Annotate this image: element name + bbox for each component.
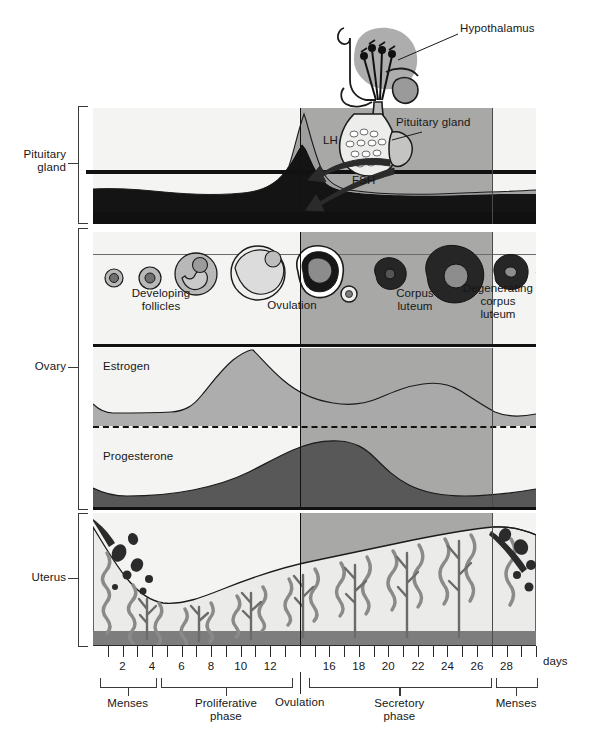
ovulation-pointer-line — [300, 672, 301, 694]
axis-tick — [536, 646, 537, 657]
phase-bracket-stem — [516, 687, 517, 696]
row-label-pituitary: Pituitary gland — [0, 148, 66, 174]
axis-tick — [359, 646, 360, 657]
axis-unit-label: days — [543, 655, 568, 668]
anatomy-label-hypothalamus: Hypothalamus — [460, 22, 535, 35]
menstrual-cycle-figure: Pituitary gland Ovary Uterus — [0, 0, 612, 747]
hormone-divider-dashed-line — [93, 426, 536, 428]
hormone-label-fsh: FSH — [352, 174, 375, 187]
axis-tick — [403, 646, 404, 657]
bracket-tick-uterus — [68, 578, 79, 579]
axis-tick — [418, 646, 419, 657]
axis-tick-label: 28 — [491, 660, 523, 673]
separator-follicles-hormones — [93, 344, 536, 347]
axis-tick-label: 6 — [166, 660, 198, 673]
posterior-lobe-right — [389, 132, 412, 167]
axis-tick — [196, 646, 197, 657]
axis-tick-label: 8 — [195, 660, 227, 673]
day28-vertical-line-uterus — [492, 513, 493, 645]
axis-tick — [300, 646, 301, 657]
axis-tick-label: 22 — [402, 660, 434, 673]
axis-tick — [388, 646, 389, 657]
day28-vertical-line-hormones — [492, 348, 493, 508]
pituitary-baseline-rule — [93, 170, 536, 174]
follicle-guide-line — [93, 254, 536, 255]
axis-tick — [137, 646, 138, 657]
phase-bracket-stem — [399, 687, 400, 696]
axis-tick — [344, 646, 345, 657]
axis-tick-label: 16 — [313, 660, 345, 673]
axis-tick — [167, 646, 168, 657]
phase-label-menses-early: Menses — [73, 697, 183, 710]
axis-tick — [315, 646, 316, 657]
secretory-shade-band-uterus — [300, 513, 492, 645]
ovulation-vertical-line-follicles — [300, 232, 301, 344]
axis-tick — [329, 646, 330, 657]
axis-tick — [447, 646, 448, 657]
phase-bracket-stem — [128, 687, 129, 696]
phase-label-secretory: Secretory phase — [344, 697, 454, 723]
bracket-uterus — [78, 513, 88, 647]
pituitary-rule-extension — [86, 170, 94, 174]
hormone-label-progesterone: Progesterone — [103, 450, 173, 463]
axis-tick — [521, 646, 522, 657]
bracket-tick-ovary — [68, 367, 79, 368]
axis-tick — [241, 646, 242, 657]
panel-uterus-endometrium — [93, 513, 536, 645]
ovulation-vertical-line-pituitary — [300, 108, 301, 224]
stage-label-corpus-luteum: Corpus luteum — [378, 287, 452, 313]
axis-tick — [108, 646, 109, 657]
row-label-uterus: Uterus — [0, 571, 66, 584]
axis-tick — [123, 646, 124, 657]
hormone-label-lh: LH — [323, 134, 338, 147]
panel-ovarian-hormones — [93, 348, 536, 508]
axis-tick — [492, 646, 493, 657]
day28-vertical-line-pituitary — [492, 108, 493, 224]
phase-bracket-stem — [226, 687, 227, 696]
axis-tick — [182, 646, 183, 657]
hormone-label-estrogen: Estrogen — [103, 360, 150, 373]
stage-label-degenerating-corpus-luteum: Degenerating corpus luteum — [452, 282, 544, 321]
axis-tick — [374, 646, 375, 657]
axis-tick — [433, 646, 434, 657]
posterior-pituitary-lobe — [393, 78, 418, 104]
secretory-shade-band-hormones — [300, 348, 492, 508]
axis-tick — [255, 646, 256, 657]
axis-tick-label: 26 — [461, 660, 493, 673]
bracket-tick-pituitary — [68, 163, 79, 164]
anatomy-label-pituitary-gland: Pituitary gland — [396, 116, 470, 129]
axis-tick-label: 24 — [431, 660, 463, 673]
ovulation-vertical-line-uterus — [300, 513, 301, 645]
axis-tick-label: 12 — [254, 660, 286, 673]
axis-tick-label: 4 — [136, 660, 168, 673]
axis-tick — [462, 646, 463, 657]
ovulation-vertical-line-hormones — [300, 348, 301, 508]
bracket-ovary — [78, 228, 88, 510]
axis-tick — [507, 646, 508, 657]
axis-tick-label: 2 — [107, 660, 139, 673]
axis-tick — [270, 646, 271, 657]
phase-label-menses-late: Menses — [461, 697, 571, 710]
axis-tick — [211, 646, 212, 657]
axis-tick — [285, 646, 286, 657]
stage-label-ovulation: Ovulation — [250, 299, 334, 312]
bracket-pituitary — [78, 106, 88, 224]
axis-tick — [152, 646, 153, 657]
axis-tick-label: 10 — [225, 660, 257, 673]
row-label-ovary: Ovary — [0, 360, 66, 373]
axis-tick — [226, 646, 227, 657]
axis-tick-label: 18 — [343, 660, 375, 673]
axis-tick-label: 20 — [372, 660, 404, 673]
stage-label-developing-follicles: Developing follicles — [113, 287, 209, 313]
axis-tick — [477, 646, 478, 657]
phase-label-ovulation: Ovulation — [245, 696, 355, 709]
optic-chiasm — [341, 88, 372, 107]
separator-hormones-uterus — [93, 507, 536, 510]
